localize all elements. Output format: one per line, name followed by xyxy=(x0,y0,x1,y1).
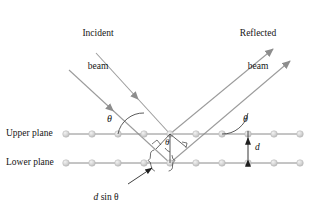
perpendicular-reflected xyxy=(170,134,186,147)
theta-center-arc xyxy=(165,148,170,152)
incident-beam-caption: Incident beam xyxy=(52,6,144,93)
reflected-beam-line1: Reflected xyxy=(212,28,304,39)
right-angle-tick-left xyxy=(152,140,161,145)
path-difference-brace-group xyxy=(128,150,175,184)
theta-right-label: θ xyxy=(243,113,248,125)
incident-beam-line1: Incident xyxy=(52,28,144,39)
spacing-label: d xyxy=(255,142,260,153)
theta-left-arc xyxy=(118,113,144,134)
path-difference-leader xyxy=(128,168,152,184)
crystal-planes-group xyxy=(63,131,304,167)
reflected-beam-line2: beam xyxy=(212,61,304,72)
incident-beam-line2: beam xyxy=(52,61,144,72)
theta-left-label: θ xyxy=(107,113,112,125)
reflected-beam-caption: Reflected beam xyxy=(212,6,304,93)
bragg-diffraction-figure: Incident beam Reflected beam Upper plane… xyxy=(0,0,311,203)
upper-plane-label: Upper plane xyxy=(6,128,53,139)
path-difference-label: d sin θ xyxy=(84,181,119,203)
path-difference-suffix: sin θ xyxy=(98,192,118,202)
path-difference-construction xyxy=(152,134,187,163)
theta-center-label: θ xyxy=(165,137,169,147)
lower-plane-label: Lower plane xyxy=(6,157,54,168)
right-angle-tick-right xyxy=(182,142,187,148)
